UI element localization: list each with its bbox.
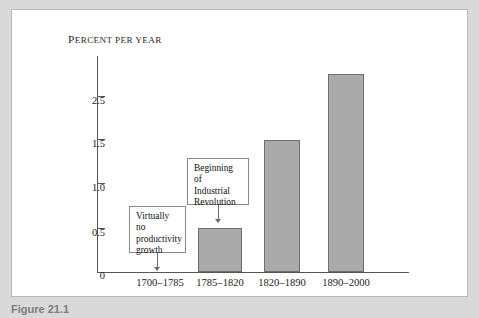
- y-axis-title-rest: ERCENT PER YEAR: [75, 35, 162, 45]
- y-tick-label-0: 0: [79, 271, 105, 282]
- bar-1785-1820: [198, 228, 242, 272]
- y-tick-mark-4: [98, 96, 105, 97]
- annotation-no-growth-stem: [157, 253, 158, 268]
- figure-caption: Figure 21.1: [11, 303, 69, 315]
- bar-1890-2000: [328, 74, 364, 272]
- annotation-industrial-revolution-line-0: Beginning of: [194, 163, 243, 186]
- bar-1820-1890: [264, 140, 300, 272]
- bar-chart-plot: PERCENT PER YEAR 2.5 1.5 1.0 0.5 0: [12, 10, 467, 296]
- y-tick-mark-1: [98, 228, 105, 229]
- figure-panel: PERCENT PER YEAR 2.5 1.5 1.0 0.5 0: [11, 9, 468, 297]
- annotation-industrial-revolution: Beginning of Industrial Revolution: [187, 158, 249, 205]
- y-tick-label-4: 2.5: [79, 96, 105, 107]
- y-tick-0: 0: [60, 271, 105, 272]
- x-axis-line: [97, 272, 409, 273]
- y-axis-line: [97, 56, 98, 273]
- y-tick-label-1: 0.5: [79, 228, 105, 239]
- annotation-no-growth-line-1: productivity: [136, 234, 180, 245]
- x-label-1890-2000: 1890–2000: [306, 277, 386, 288]
- y-tick-label-2: 1.0: [79, 183, 105, 194]
- annotation-no-growth: Virtually no productivity growth: [129, 206, 186, 253]
- y-axis-title-first-letter: P: [68, 33, 75, 45]
- annotation-no-growth-arrow-icon: [154, 267, 160, 271]
- annotation-industrial-revolution-arrow-icon: [215, 219, 221, 223]
- annotation-industrial-revolution-stem: [218, 205, 219, 220]
- y-tick-mark-3: [98, 139, 105, 140]
- y-tick-mark-2: [98, 183, 105, 184]
- annotation-industrial-revolution-line-1: Industrial: [194, 186, 243, 197]
- y-tick-label-3: 1.5: [79, 139, 105, 150]
- annotation-no-growth-line-2: growth: [136, 245, 180, 256]
- y-axis-title: PERCENT PER YEAR: [68, 33, 162, 45]
- annotation-no-growth-line-0: Virtually no: [136, 211, 180, 234]
